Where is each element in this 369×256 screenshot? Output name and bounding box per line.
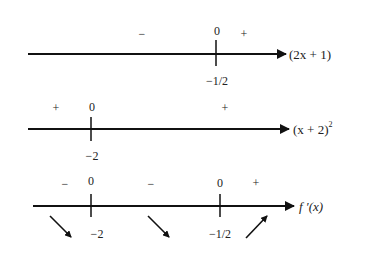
- sign-plus: +: [241, 27, 248, 41]
- critical-point-label: −2: [86, 149, 99, 163]
- zero-value: 0: [214, 24, 220, 38]
- sign-plus: +: [253, 176, 260, 190]
- zero-value: 0: [88, 174, 94, 188]
- sign-plus: +: [53, 101, 60, 115]
- critical-point-label: −2: [91, 227, 104, 241]
- row-x-plus-2-squared: + 0 + −2 (x + 2)2: [28, 100, 333, 163]
- zero-value: 0: [89, 100, 95, 114]
- row-label: (2x + 1): [289, 47, 331, 62]
- decreasing-arrow-icon: [50, 216, 71, 237]
- zero-value: 0: [217, 176, 223, 190]
- increasing-arrow-icon: [246, 216, 267, 238]
- critical-point-label: −1/2: [206, 74, 228, 88]
- row-2x-plus-1: − 0 + −1/2 (2x + 1): [28, 24, 331, 88]
- row-label: f ′(x): [299, 199, 323, 214]
- sign-minus: −: [62, 177, 69, 191]
- sign-plus: +: [222, 101, 229, 115]
- critical-point-label: −1/2: [209, 227, 231, 241]
- sign-minus: −: [148, 177, 155, 191]
- row-f-prime: − 0 − 0 + −2 −1/2 f ′(x): [33, 174, 323, 241]
- decreasing-arrow-icon: [148, 216, 169, 237]
- sign-chart: − 0 + −1/2 (2x + 1) + 0 + −2 (x + 2)2 − …: [0, 0, 369, 256]
- row-label: (x + 2)2: [293, 120, 333, 137]
- sign-minus: −: [139, 27, 146, 41]
